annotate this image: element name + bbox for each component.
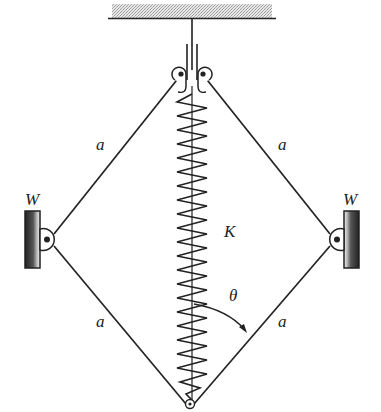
left-weight [25,211,54,268]
label-bar-lower-left: a [96,313,105,330]
label-bar-lower-right: a [278,313,287,330]
right-hinge-pin [334,237,340,243]
bar-upper-right [204,76,330,234]
rhombus-spring-linkage-diagram [0,0,381,412]
spring-k [177,86,207,400]
bar-lower-left [54,246,186,404]
bar-lower-right [194,246,330,404]
label-spring-constant: K [224,223,235,240]
label-bar-upper-right: a [278,136,287,153]
ceiling-hatch [112,4,272,18]
bottom-hinge [186,400,195,409]
hanger-rod [187,19,197,80]
left-hinge-pin [44,237,50,243]
right-weight [330,211,359,268]
label-angle-theta: θ [229,287,237,304]
theta-angle-arc [194,304,247,333]
label-weight-right: W [343,191,357,208]
label-bar-upper-left: a [96,136,105,153]
label-weight-left: W [25,191,39,208]
ceiling-support [108,4,276,19]
bar-upper-left [54,76,180,234]
